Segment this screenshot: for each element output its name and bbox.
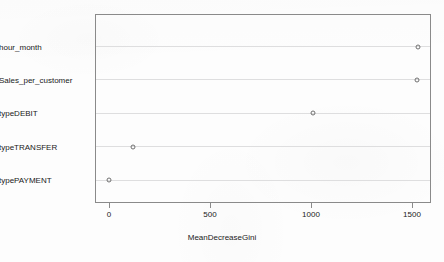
- chart-title-clipped: [0, 0, 444, 5]
- dotchart-figure: typePAYMENTtypeTRANSFERtypeDEBITSales_pe…: [0, 0, 444, 262]
- x-tick-mark-0: [109, 203, 110, 208]
- x-tick-mark-1500: [412, 203, 413, 208]
- y-axis-label-typeDEBIT: typeDEBIT: [0, 109, 91, 118]
- x-tick-label-0: 0: [107, 210, 111, 219]
- y-axis-label-Sales_per_customer: Sales_per_customer: [0, 75, 91, 84]
- gridline-typeTRANSFER: [96, 146, 430, 147]
- gridline-typePAYMENT: [96, 180, 430, 181]
- x-tick-mark-1000: [311, 203, 312, 208]
- data-point-typeDEBIT: [311, 111, 316, 116]
- data-point-typeTRANSFER: [130, 144, 135, 149]
- plot-area-border: [95, 14, 431, 203]
- x-tick-mark-500: [210, 203, 211, 208]
- data-point-typePAYMENT: [107, 178, 112, 183]
- x-axis-title: MeanDecreaseGini: [0, 233, 444, 242]
- data-point-hour_month: [416, 44, 421, 49]
- gridline-Sales_per_customer: [96, 79, 430, 80]
- gridline-hour_month: [96, 46, 430, 47]
- x-tick-label-1500: 1500: [403, 210, 421, 219]
- data-point-Sales_per_customer: [415, 77, 420, 82]
- y-axis-label-typePAYMENT: typePAYMENT: [0, 176, 91, 185]
- y-axis-label-hour_month: hour_month: [0, 42, 91, 51]
- x-tick-label-1000: 1000: [302, 210, 320, 219]
- y-axis-label-typeTRANSFER: typeTRANSFER: [0, 142, 91, 151]
- gridline-typeDEBIT: [96, 113, 430, 114]
- x-tick-label-500: 500: [203, 210, 216, 219]
